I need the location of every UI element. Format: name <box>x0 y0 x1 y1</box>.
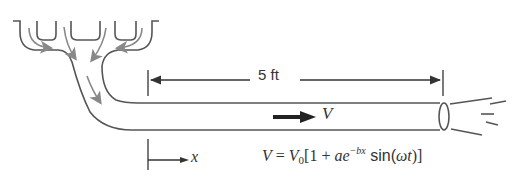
pipe-upper-wall <box>102 21 440 103</box>
velocity-label: V <box>322 104 332 124</box>
pipe-flow-diagram: 5 ft V x V = V0[1 + ae−bx sin(ωt)] <box>0 0 522 180</box>
eq-exponent: −bx <box>350 145 366 156</box>
dimension-label: 5 ft <box>255 66 282 83</box>
port-3 <box>115 21 136 40</box>
nozzle-exit <box>439 98 506 135</box>
eq-omega-t: ωt <box>396 147 412 164</box>
eq-sin: sin( <box>366 147 396 164</box>
eq-open: [1 + <box>304 147 334 164</box>
eq-lhs: V <box>262 147 272 164</box>
port-2 <box>71 21 100 40</box>
x-axis-label: x <box>191 148 198 166</box>
eq-close: )] <box>412 147 423 164</box>
eq-equals: = <box>272 147 289 164</box>
velocity-arrow <box>273 111 316 123</box>
diagram-drawing <box>0 0 522 180</box>
x-axis <box>148 139 189 170</box>
pipe-lower-wall <box>13 21 440 130</box>
velocity-equation: V = V0[1 + ae−bx sin(ωt)] <box>262 145 422 166</box>
flow-arrows <box>29 27 142 102</box>
port-1 <box>37 21 56 40</box>
eq-v0: V <box>289 147 299 164</box>
dimension-5ft <box>148 70 443 96</box>
eq-ae: ae <box>334 147 349 164</box>
manifold <box>13 21 440 130</box>
